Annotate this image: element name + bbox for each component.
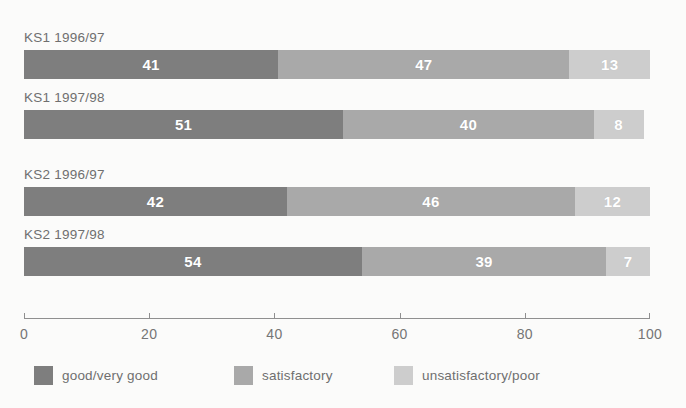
bar-label: KS1 1997/98 [24,90,105,105]
legend-swatch [234,366,253,385]
bar-segment-value: 39 [475,253,492,270]
x-axis: 020406080100 [24,318,650,352]
legend-label: good/very good [62,368,158,383]
bar-segment-value: 40 [460,116,477,133]
bar-segment: 8 [594,110,644,139]
bar-track: 54397 [24,247,650,276]
chart-legend: good/very goodsatisfactoryunsatisfactory… [24,362,650,388]
legend-swatch [394,366,413,385]
bar-track: 414713 [24,50,650,79]
bar-segment-value: 13 [601,56,618,73]
axis-tick-label: 60 [392,326,408,342]
bar-segment-value: 41 [142,56,159,73]
axis-tick [525,313,526,319]
bar-track: 424612 [24,187,650,216]
axis-tick-label: 80 [517,326,533,342]
legend-item: satisfactory [234,366,333,385]
bar-segment: 40 [343,110,593,139]
legend-item: unsatisfactory/poor [394,366,540,385]
clipped-header-text [24,0,524,6]
legend-item: good/very good [34,366,158,385]
bar-segment: 41 [24,50,278,79]
bar-label: KS2 1996/97 [24,167,105,182]
axis-tick [24,313,25,319]
stacked-bar-chart: KS1 1996/97414713KS1 1997/9851408KS2 199… [0,0,686,408]
bar-segment-value: 54 [184,253,201,270]
bar-segment-value: 51 [175,116,192,133]
axis-tick-label: 20 [141,326,157,342]
axis-tick-label: 40 [266,326,282,342]
bar-segment-value: 8 [614,116,623,133]
bar-segment: 42 [24,187,287,216]
bar-track: 51408 [24,110,650,139]
axis-tick [649,313,650,319]
axis-tick [400,313,401,319]
axis-tick-label: 0 [20,326,28,342]
legend-label: unsatisfactory/poor [422,368,540,383]
bar-segment-value: 42 [147,193,164,210]
bar-segment: 7 [606,247,650,276]
bar-segment: 46 [287,187,575,216]
bar-row: KS2 1996/97424612 [0,167,686,216]
axis-tick [149,313,150,319]
bar-segment-value: 7 [624,253,633,270]
bar-segment: 47 [278,50,569,79]
axis-line [24,318,650,319]
legend-label: satisfactory [262,368,333,383]
bar-segment-value: 46 [422,193,439,210]
bar-segment-value: 12 [604,193,621,210]
bar-row: KS1 1996/97414713 [0,30,686,79]
bar-row: KS1 1997/9851408 [0,90,686,139]
bar-label: KS1 1996/97 [24,30,105,45]
legend-swatch [34,366,53,385]
bar-label: KS2 1997/98 [24,227,105,242]
bar-segment: 51 [24,110,343,139]
bar-segment: 39 [362,247,606,276]
bar-row: KS2 1997/9854397 [0,227,686,276]
axis-tick-label: 100 [638,326,662,342]
bar-segment-value: 47 [415,56,432,73]
bar-segment: 54 [24,247,362,276]
axis-tick [274,313,275,319]
bar-segment: 13 [569,50,650,79]
bar-segment: 12 [575,187,650,216]
